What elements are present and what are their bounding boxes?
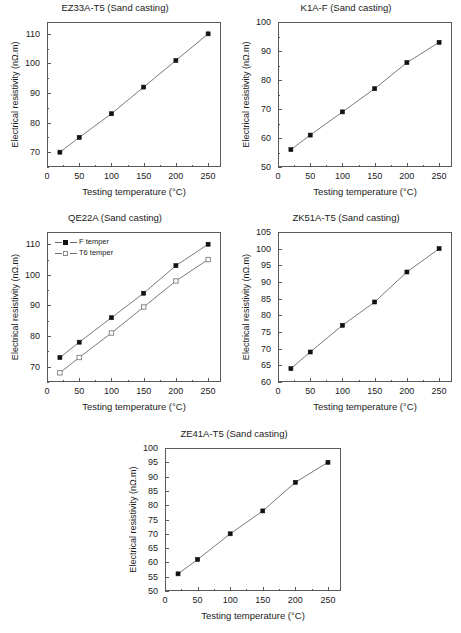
data-point-marker [174,264,178,268]
legend-item: F temper [55,237,113,248]
legend-label: T6 temper [79,248,113,259]
chart-legend: F temperT6 temper [55,237,113,259]
data-point-marker [405,61,409,65]
data-point-marker [405,270,409,274]
data-point-marker [141,305,145,309]
legend-label: F temper [79,237,109,248]
data-point-marker [373,87,377,91]
data-point-marker [206,257,210,261]
data-point-marker [142,291,146,295]
data-point-marker [206,242,210,246]
data-point-marker [77,135,81,139]
series-layer [0,2,230,207]
data-point-marker [308,350,312,354]
series-line [291,42,439,149]
series-layer [231,212,461,422]
data-point-marker [176,572,180,576]
legend-marker-icon [55,238,77,246]
series-layer [118,428,350,631]
data-point-marker [142,85,146,89]
data-point-marker [58,150,62,154]
data-point-marker [340,323,344,327]
data-point-marker [109,316,113,320]
data-point-marker [77,355,81,359]
series-layer [231,2,461,207]
chart-panel-qe22a: QE22A (Sand casting)70809010011005010015… [0,212,230,422]
legend-marker-icon [55,249,77,257]
series-layer [0,212,230,422]
series-line [178,462,328,574]
chart-panel-k1af: K1A-F (Sand casting)50607080901000501001… [231,2,461,207]
data-point-marker [326,460,330,464]
data-point-marker [289,148,293,152]
data-point-marker [228,532,232,536]
data-point-marker [109,112,113,116]
legend-item: T6 temper [55,248,113,259]
data-point-marker [437,247,441,251]
data-point-marker [58,356,62,360]
data-point-marker [293,480,297,484]
data-point-marker [308,133,312,137]
series-line [60,260,208,373]
chart-panel-ze41a: ZE41A-T5 (Sand casting)50556065707580859… [118,428,350,631]
data-point-marker [289,367,293,371]
data-point-marker [77,340,81,344]
chart-panel-zk51a: ZK51A-T5 (Sand casting)60657075808590951… [231,212,461,422]
data-point-marker [373,300,377,304]
data-point-marker [261,509,265,513]
data-point-marker [437,40,441,44]
series-line [60,244,208,357]
data-point-marker [58,371,62,375]
series-line [60,34,208,152]
data-point-marker [174,279,178,283]
series-line [291,249,439,369]
chart-panel-ez33a: EZ33A-T5 (Sand casting)70809010011005010… [0,2,230,207]
data-point-marker [196,558,200,562]
data-point-marker [109,331,113,335]
data-point-marker [340,110,344,114]
data-point-marker [206,32,210,36]
data-point-marker [174,58,178,62]
